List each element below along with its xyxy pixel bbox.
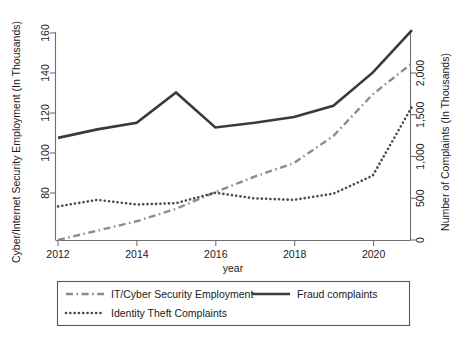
left-tick-label-100: 100 — [39, 144, 51, 162]
left-axis-title: Cyber/Internet Security Employment (In T… — [10, 21, 22, 263]
left-tick-label-160: 160 — [39, 24, 51, 42]
x-tick-label-2012: 2012 — [46, 248, 70, 260]
right-tick-label-0: 0 — [414, 237, 426, 243]
x-tick-label-2018: 2018 — [283, 248, 307, 260]
legend-label-identity-theft-complaints: Identity Theft Complaints — [111, 307, 227, 319]
right-tick-label-500: 500 — [414, 189, 426, 207]
right-tick-label-2000: 2,000 — [414, 60, 426, 86]
x-axis-title: year — [223, 262, 244, 274]
chart-figure: 160 140 120 100 80 Cyber/Internet Securi… — [0, 0, 461, 338]
right-axis-title: Number of Complaints (In Thousands) — [439, 53, 451, 231]
x-tick-label-2014: 2014 — [125, 248, 149, 260]
left-tick-label-80: 80 — [39, 187, 51, 199]
left-tick-label-120: 120 — [39, 104, 51, 122]
legend-label-it-cyber-security-employment: IT/Cyber Security Employment — [111, 288, 253, 300]
x-tick-label-2016: 2016 — [204, 248, 228, 260]
left-tick-label-140: 140 — [39, 64, 51, 82]
right-tick-label-1000: 1,000 — [414, 143, 426, 169]
right-tick-label-1500: 1,500 — [414, 101, 426, 127]
x-tick-label-2020: 2020 — [362, 248, 386, 260]
legend-label-fraud-complaints: Fraud complaints — [297, 288, 378, 300]
